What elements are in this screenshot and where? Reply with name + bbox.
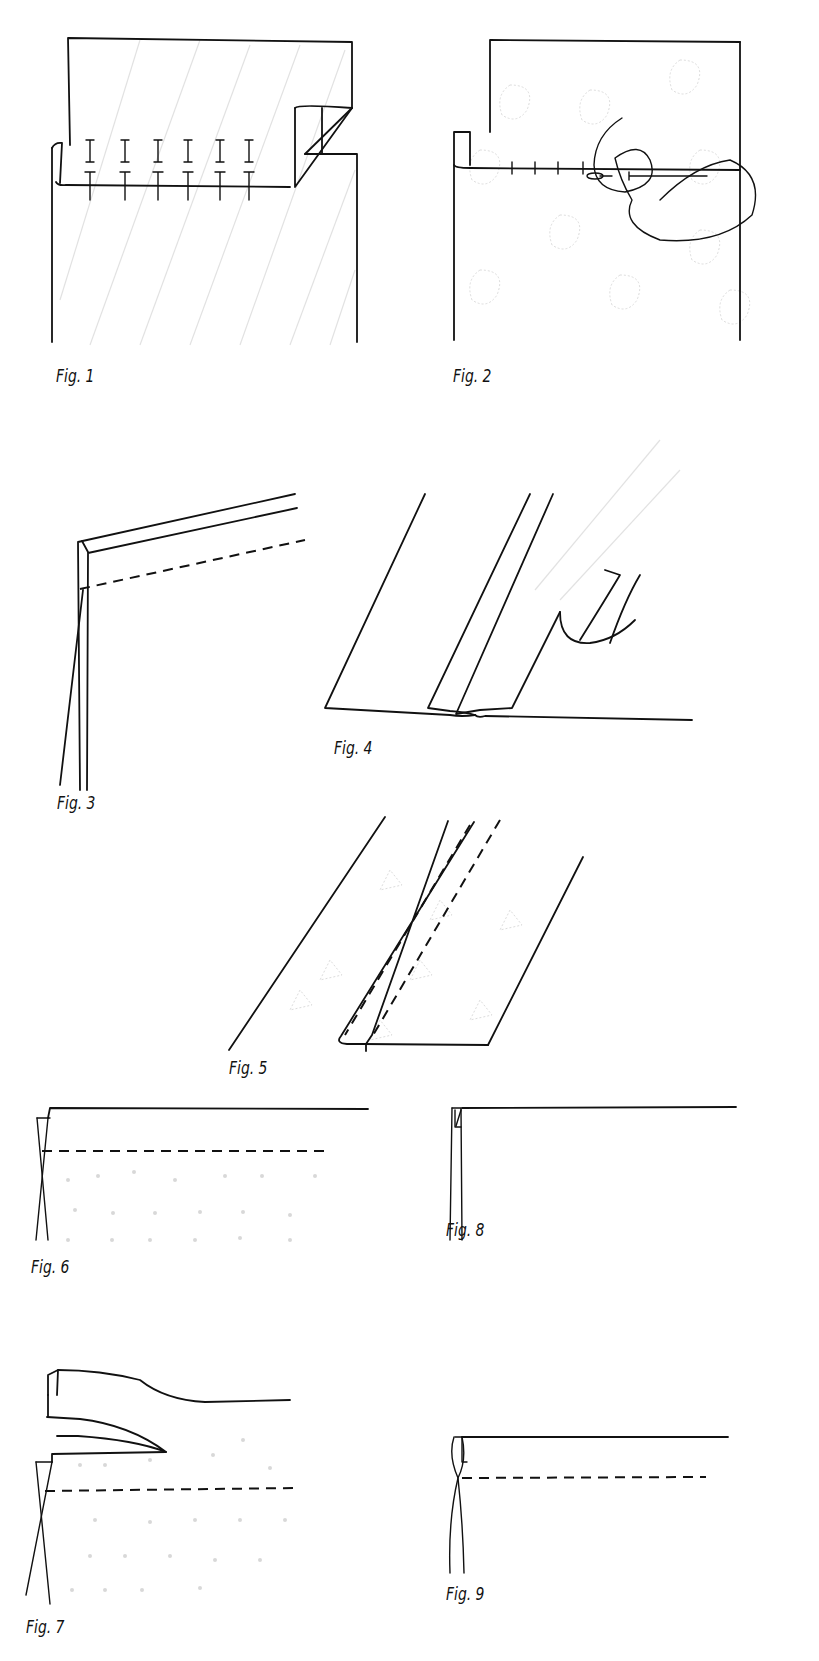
figure-5-illustration [229,817,583,1051]
figure-7-illustration [26,1370,295,1604]
figure-8-illustration [450,1107,736,1240]
figure-1-illustration [52,38,357,345]
figure-8-caption: Fig. 8 [446,1220,484,1240]
figure-7-caption: Fig. 7 [26,1617,64,1637]
sewing-diagram-canvas [0,0,819,1661]
figure-5-caption: Fig. 5 [229,1058,267,1078]
figure-4-caption: Fig. 4 [334,738,372,758]
figure-9-illustration [450,1437,728,1573]
figure-6-caption: Fig. 6 [31,1257,69,1277]
figure-4-illustration [325,440,692,720]
figure-1-caption: Fig. 1 [56,366,94,386]
figure-2-illustration [454,40,756,340]
figure-3-caption: Fig. 3 [57,793,95,813]
figure-9-caption: Fig. 9 [446,1584,484,1604]
figure-2-caption: Fig. 2 [453,366,491,386]
figure-3-illustration [60,494,305,790]
figure-6-illustration [36,1108,368,1242]
